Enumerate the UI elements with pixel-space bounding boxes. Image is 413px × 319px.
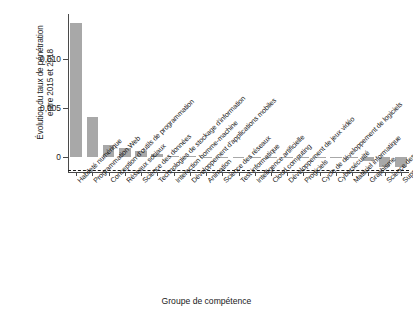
y-tick-label: 0,010	[40, 54, 61, 64]
bar	[70, 23, 82, 158]
x-tick-mark	[239, 172, 240, 176]
y-tick-label: 0	[56, 152, 61, 162]
x-tick-mark	[109, 172, 110, 176]
x-tick-label: Technologies de stockage d'information	[157, 179, 162, 184]
x-tick-label: Interaction homme-machine	[174, 179, 179, 184]
x-tick-mark	[287, 172, 288, 176]
x-tick-mark	[320, 172, 321, 176]
y-axis-title-line1: Évolution du taux de pénétration	[36, 25, 47, 139]
x-axis-title: Groupe de compétence	[0, 296, 413, 306]
x-tick-label: Développement d'applications mobiles	[190, 179, 195, 184]
x-tick-mark	[303, 172, 304, 176]
y-axis-title: Évolution du taux de pénétration entre 2…	[30, 0, 62, 170]
x-tick-label: Progiciels	[303, 179, 308, 184]
x-tick-label: Développement de jeux vidéo	[287, 179, 292, 184]
x-tick-label: Habileté numérique	[76, 179, 81, 184]
x-tick-label: Animation	[206, 179, 211, 184]
x-tick-label: Test informatique	[239, 179, 244, 184]
x-tick-label: Cybersécurité	[336, 179, 341, 184]
x-tick-label: Support technique	[401, 179, 406, 184]
x-tick-label: Programmation Web	[92, 179, 97, 184]
x-tick-mark	[76, 172, 77, 176]
x-tick-label: Science des données	[141, 179, 146, 184]
x-tick-mark	[385, 172, 386, 176]
x-tick-label: Conception d'outils de programmation	[109, 179, 114, 184]
chart-figure: Évolution du taux de pénétration entre 2…	[0, 0, 413, 319]
x-tick-label: Cloud computing	[271, 179, 276, 184]
x-tick-label: Science des réseaux	[385, 179, 390, 184]
x-tick-label: Intelligence artificielle	[255, 179, 260, 184]
x-tick-label: Réseaux sociaux	[125, 179, 130, 184]
x-tick-label: Science des réseaux	[222, 179, 227, 184]
x-tick-label: Graphisme	[368, 179, 373, 184]
x-tick-mark	[157, 172, 158, 176]
x-tick-mark	[368, 172, 369, 176]
x-tick-mark	[92, 172, 93, 176]
y-tick-label: 0,005	[40, 103, 61, 113]
x-tick-mark	[222, 172, 223, 176]
x-tick-label: Cycle de développement de logiciels	[320, 179, 325, 184]
x-tick-label: Matériel informatique	[352, 179, 357, 184]
bar	[87, 117, 99, 157]
x-tick-mark	[174, 172, 175, 176]
